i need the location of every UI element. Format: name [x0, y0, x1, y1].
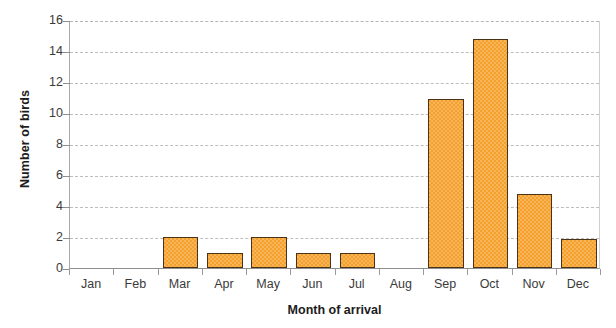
- y-tick-label: 2: [27, 231, 63, 244]
- x-tick-label-jul: Jul: [335, 278, 379, 291]
- plot-area: [69, 21, 600, 269]
- bar-slot: [247, 21, 291, 268]
- x-axis-title: Month of arrival: [69, 303, 600, 317]
- x-tick-label-sep: Sep: [423, 278, 467, 291]
- x-tick-mark: [335, 269, 336, 275]
- y-tick-mark: [63, 145, 70, 146]
- bar-jul[interactable]: [340, 253, 375, 269]
- y-tick-label: 16: [27, 14, 63, 27]
- x-tick-mark: [423, 269, 424, 275]
- chart-title: [130, 0, 490, 3]
- bar-apr[interactable]: [207, 253, 242, 269]
- bar-nov[interactable]: [517, 194, 552, 268]
- bar-jun[interactable]: [296, 253, 331, 269]
- y-tick-mark: [63, 114, 70, 115]
- bar-slot: [380, 21, 424, 268]
- x-tick-mark: [69, 269, 70, 275]
- y-tick-mark: [63, 83, 70, 84]
- x-tick-label-jan: Jan: [69, 278, 113, 291]
- x-tick-label-jun: Jun: [290, 278, 334, 291]
- bar-slot: [557, 21, 601, 268]
- bar-sep[interactable]: [428, 99, 463, 268]
- bar-slot: [291, 21, 335, 268]
- x-tick-label-apr: Apr: [202, 278, 246, 291]
- y-tick-label: 10: [27, 107, 63, 120]
- x-tick-label-nov: Nov: [512, 278, 556, 291]
- x-tick-label-feb: Feb: [113, 278, 157, 291]
- y-tick-mark: [63, 207, 70, 208]
- bar-slot: [468, 21, 512, 268]
- y-tick-mark: [63, 21, 70, 22]
- bar-may[interactable]: [251, 237, 286, 268]
- bar-slot: [159, 21, 203, 268]
- x-tick-mark: [600, 269, 601, 275]
- x-tick-mark: [158, 269, 159, 275]
- y-tick-label: 12: [27, 76, 63, 89]
- bar-slot: [424, 21, 468, 268]
- bar-slot: [70, 21, 114, 268]
- x-tick-mark: [290, 269, 291, 275]
- bar-chart: Number of birds 1614121086420 JanFebMarA…: [0, 0, 616, 328]
- x-tick-mark: [202, 269, 203, 275]
- bar-dec[interactable]: [561, 239, 596, 268]
- bar-slot: [336, 21, 380, 268]
- x-tick-mark: [467, 269, 468, 275]
- x-tick-label-aug: Aug: [379, 278, 423, 291]
- x-tick-label-may: May: [246, 278, 290, 291]
- y-tick-mark: [63, 52, 70, 53]
- x-tick-mark: [379, 269, 380, 275]
- bar-mar[interactable]: [163, 237, 198, 268]
- bar-slot: [114, 21, 158, 268]
- y-tick-label: 6: [27, 169, 63, 182]
- y-tick-label: 0: [27, 262, 63, 275]
- x-tick-label-dec: Dec: [556, 278, 600, 291]
- x-tick-mark: [512, 269, 513, 275]
- y-tick-label: 8: [27, 138, 63, 151]
- x-tick-label-mar: Mar: [158, 278, 202, 291]
- bar-slot: [203, 21, 247, 268]
- x-tick-mark: [556, 269, 557, 275]
- y-tick-mark: [63, 238, 70, 239]
- y-tick-label: 14: [27, 45, 63, 58]
- y-tick-mark: [63, 176, 70, 177]
- bar-slot: [513, 21, 557, 268]
- x-tick-mark: [246, 269, 247, 275]
- x-tick-label-oct: Oct: [467, 278, 511, 291]
- x-tick-mark: [113, 269, 114, 275]
- y-tick-label: 4: [27, 200, 63, 213]
- bar-oct[interactable]: [473, 39, 508, 268]
